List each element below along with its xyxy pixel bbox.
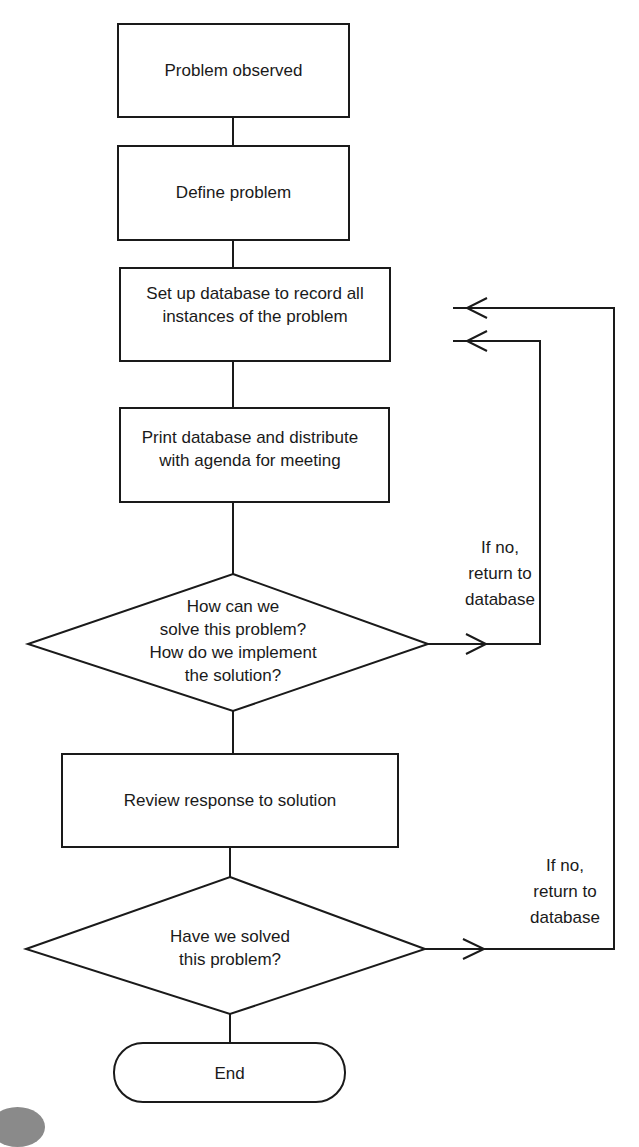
node-review-response-label: Review response to solution [62,789,398,812]
page-corner-mark [0,1107,45,1147]
node-print-database-label: Print database and distribute with agend… [110,426,390,472]
node-problem-observed-label: Problem observed [118,59,349,82]
node-decision-solve-label: How can we solve this problem? How do we… [110,595,356,687]
node-decision-solved-label: Have we solved this problem? [130,925,330,971]
node-define-problem-label: Define problem [118,181,349,204]
loop-label-1: If no, return to database [440,535,560,613]
node-set-up-database-label: Set up database to record all instances … [120,282,390,328]
node-end-label: End [114,1062,345,1085]
loop-label-2: If no, return to database [505,853,625,931]
